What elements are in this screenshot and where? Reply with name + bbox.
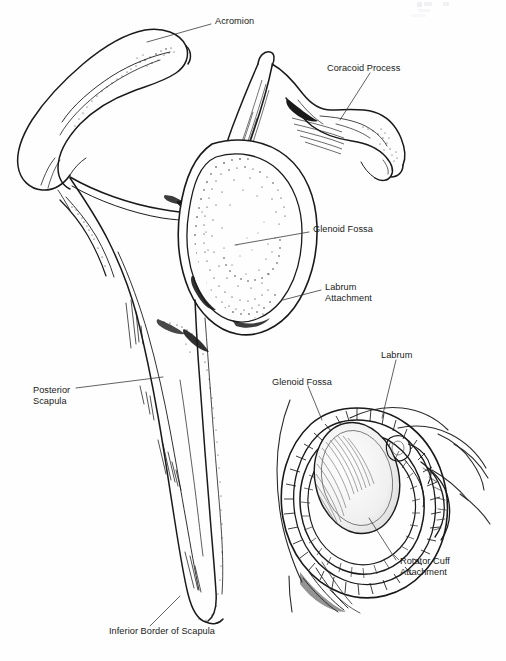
scan-artifact-5 xyxy=(412,14,426,17)
scan-artifact-3 xyxy=(443,2,449,6)
label-inset-glenoid-fossa: Glenoid Fossa xyxy=(272,377,332,389)
scan-artifact-2 xyxy=(424,2,432,6)
label-acromion: Acromion xyxy=(215,16,254,28)
label-posterior-scapula-line1: Posterior xyxy=(33,385,70,397)
label-inferior-border-of-scapula: Inferior Border of Scapula xyxy=(109,626,215,638)
label-glenoid-fossa-main: Glenoid Fossa xyxy=(313,224,373,236)
label-labrum-attachment-line2: Attachment xyxy=(325,293,372,305)
scan-artifact-1 xyxy=(417,2,422,7)
label-rotator-cuff-line1: Rotator Cuff xyxy=(400,556,450,568)
scan-artifact-4 xyxy=(418,9,430,12)
label-posterior-scapula-line2: Scapula xyxy=(33,396,67,408)
label-inset-labrum: Labrum xyxy=(381,350,412,362)
glenoid-fossa-outer xyxy=(178,140,317,335)
label-labrum-attachment-line1: Labrum xyxy=(325,282,356,294)
label-rotator-cuff-line2: Attachment xyxy=(400,567,447,579)
figure-canvas: Acromion Coracoid Process Glenoid Fossa … xyxy=(0,0,506,661)
label-coracoid-process: Coracoid Process xyxy=(327,63,400,75)
